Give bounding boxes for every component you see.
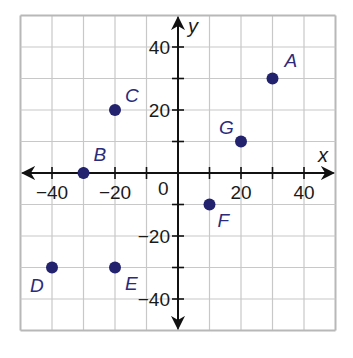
y-tick-label: −20 — [138, 226, 170, 247]
coordinate-plane: −40−2020404020−20−40 ABCDEFG x y 0 — [0, 0, 353, 358]
y-tick-label: 20 — [149, 100, 170, 121]
x-axis-label: x — [317, 144, 329, 166]
point-label: G — [219, 117, 234, 138]
point-marker — [46, 262, 58, 274]
y-tick-label: −40 — [138, 289, 170, 310]
y-axis-label: y — [186, 15, 199, 37]
point-e: E — [109, 262, 138, 294]
point-f: F — [204, 199, 231, 231]
point-label: F — [218, 210, 231, 231]
origin-label: 0 — [158, 178, 169, 199]
x-tick-label: 40 — [293, 182, 314, 203]
x-tick-label: 20 — [230, 182, 251, 203]
point-d: D — [30, 262, 58, 296]
point-marker — [235, 136, 247, 148]
point-label: D — [30, 275, 44, 296]
point-label: C — [125, 85, 139, 106]
point-label: B — [94, 144, 107, 165]
point-g: G — [219, 117, 247, 148]
point-a: A — [267, 50, 298, 85]
point-marker — [204, 199, 216, 211]
point-c: C — [109, 85, 139, 116]
point-marker — [109, 262, 121, 274]
x-tick-label: −40 — [36, 182, 68, 203]
point-marker — [109, 104, 121, 116]
point-label: E — [125, 273, 138, 294]
y-tick-label: 40 — [149, 37, 170, 58]
point-marker — [267, 73, 279, 85]
point-label: A — [284, 50, 298, 71]
point-marker — [78, 167, 90, 179]
x-tick-label: −20 — [99, 182, 131, 203]
